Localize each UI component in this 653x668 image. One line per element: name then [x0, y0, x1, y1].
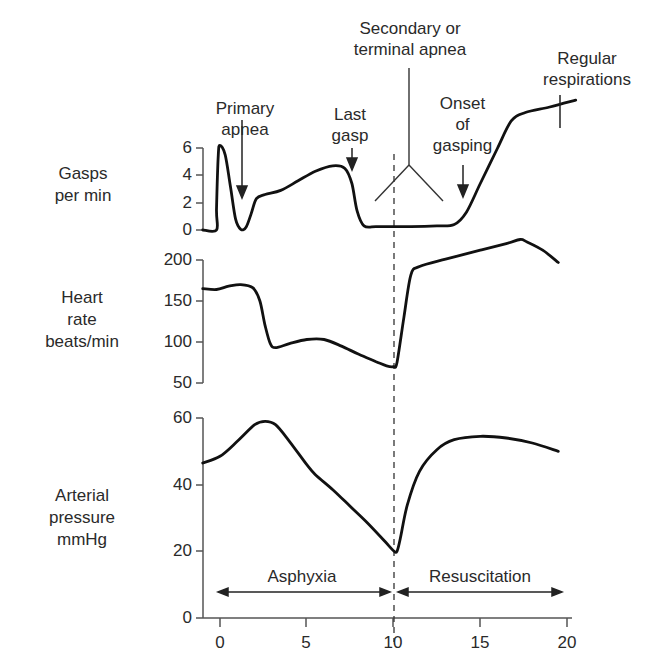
resuscitation-label: Resuscitation — [420, 566, 540, 587]
pressure-label-line: mmHg — [22, 529, 142, 551]
annotation-line: of — [420, 114, 505, 135]
secondary-apnea-label: Secondary or terminal apnea — [340, 18, 480, 60]
last-gasp-label: Last gasp — [320, 104, 380, 146]
annotation-line: Last — [320, 104, 380, 125]
heart-tick-label: 150 — [152, 292, 192, 310]
heart-label-line: Heart — [22, 287, 142, 309]
asphyxia-span-arrow — [218, 588, 390, 596]
x-axis — [203, 618, 572, 627]
annotation-line: respirations — [527, 69, 647, 90]
onset-gasping-arrow — [458, 165, 468, 197]
annotation-line: apnea — [200, 119, 290, 140]
pressure-label-line: Arterial — [22, 485, 142, 507]
gasps-label-line: Gasps — [28, 163, 138, 185]
gasps-tick-label: 2 — [152, 194, 192, 212]
pressure-tick-label: 60 — [152, 409, 192, 427]
heart-tick-label: 100 — [152, 333, 192, 351]
x-tick-label: 20 — [552, 634, 582, 652]
primary-apnea-label: Primary apnea — [200, 98, 290, 140]
annotation-line: Regular — [527, 48, 647, 69]
x-tick-label: 5 — [291, 634, 321, 652]
heart-rate-y-axis — [196, 260, 203, 383]
gasps-tick-label: 4 — [152, 166, 192, 184]
resuscitation-span-arrow — [398, 588, 562, 596]
annotation-line: Primary — [200, 98, 290, 119]
regular-respirations-label: Regular respirations — [527, 48, 647, 90]
heart-tick-label: 50 — [152, 374, 192, 392]
pressure-y-axis — [196, 418, 203, 618]
gasps-y-axis — [196, 148, 203, 230]
pressure-tick-label: 40 — [152, 476, 192, 494]
x-tick-label: 10 — [378, 634, 408, 652]
x-tick-label: 15 — [465, 634, 495, 652]
heart-rate-curve — [203, 239, 559, 367]
x-tick-label: 0 — [205, 634, 235, 652]
last-gasp-arrow — [347, 148, 357, 170]
asphyxia-label: Asphyxia — [252, 566, 352, 587]
annotation-line: gasp — [320, 125, 380, 146]
gasps-tick-label: 6 — [152, 139, 192, 157]
pressure-axis-label: Arterial pressure mmHg — [22, 485, 142, 551]
pressure-tick-label: 20 — [152, 542, 192, 560]
annotation-line: Secondary or — [340, 18, 480, 39]
pressure-tick-label: 0 — [152, 609, 192, 627]
heart-label-line: beats/min — [22, 331, 142, 353]
gasps-tick-label: 0 — [152, 221, 192, 239]
heart-label-line: rate — [22, 309, 142, 331]
annotation-line: Onset — [420, 93, 505, 114]
heart-tick-label: 200 — [152, 251, 192, 269]
annotation-line: terminal apnea — [340, 39, 480, 60]
pressure-curve — [203, 421, 559, 552]
pressure-label-line: pressure — [22, 507, 142, 529]
gasps-label-line: per min — [28, 185, 138, 207]
gasps-axis-label: Gasps per min — [28, 163, 138, 207]
annotation-line: gasping — [420, 135, 505, 156]
heart-rate-axis-label: Heart rate beats/min — [22, 287, 142, 353]
onset-gasping-label: Onset of gasping — [420, 93, 505, 156]
